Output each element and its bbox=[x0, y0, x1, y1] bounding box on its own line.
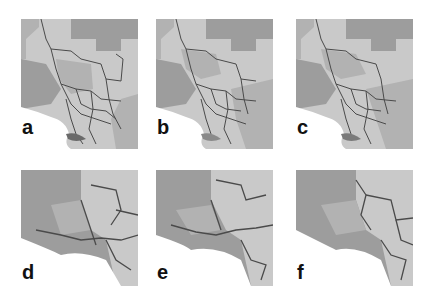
zoomed-coast-map bbox=[21, 170, 138, 286]
panel-label-d: d bbox=[22, 262, 34, 282]
panel-label-f: f bbox=[297, 262, 304, 282]
map-panel-c bbox=[296, 19, 413, 149]
panel-label-c: c bbox=[297, 117, 308, 137]
full-region-map bbox=[156, 19, 273, 149]
zoomed-coast-map bbox=[296, 170, 413, 286]
map-panel-e bbox=[156, 170, 273, 286]
zoomed-coast-map bbox=[156, 170, 273, 286]
full-region-map bbox=[21, 19, 138, 149]
map-panel-a bbox=[21, 19, 138, 149]
panel-label-e: e bbox=[157, 262, 168, 282]
panel-label-a: a bbox=[22, 117, 33, 137]
map-panel-f bbox=[296, 170, 413, 286]
map-panel-b bbox=[156, 19, 273, 149]
map-panel-d bbox=[21, 170, 138, 286]
full-region-map bbox=[296, 19, 413, 149]
panel-label-b: b bbox=[157, 117, 169, 137]
